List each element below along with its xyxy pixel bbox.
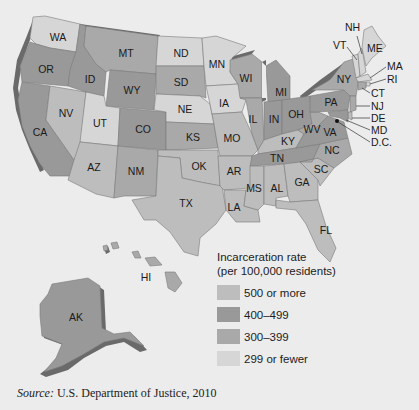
label-wi: WI	[240, 72, 253, 84]
label-me: ME	[367, 42, 383, 54]
label-mn: MN	[209, 58, 225, 70]
legend-swatch	[217, 329, 240, 344]
label-tx: TX	[179, 197, 192, 209]
callout-line-vt	[347, 47, 357, 60]
legend-label: 500 or more	[244, 287, 306, 299]
legend-title: Incarceration rate	[217, 250, 407, 264]
label-ks: KS	[186, 131, 200, 143]
label-vt: VT	[333, 39, 347, 51]
state-hi-island-4[interactable]	[145, 257, 162, 266]
legend-swatch	[217, 307, 240, 322]
state-de[interactable]	[348, 112, 352, 120]
legend-label: 300–399	[244, 331, 289, 343]
state-hi-island-5[interactable]	[165, 272, 182, 292]
label-md: MD	[371, 124, 388, 136]
state-ri[interactable]	[366, 82, 370, 86]
label-va: VA	[323, 126, 336, 138]
label-az: AZ	[87, 161, 101, 173]
label-ga: GA	[294, 176, 309, 188]
label-or: OR	[38, 63, 54, 75]
label-nc: NC	[324, 144, 340, 156]
label-al: AL	[271, 182, 284, 194]
callout-line-ri	[370, 79, 386, 84]
callout-line-ct	[362, 88, 370, 93]
label-tn: TN	[270, 152, 284, 164]
label-mi: MI	[275, 86, 287, 98]
source-note: Source: U.S. Department of Justice, 2010	[17, 386, 217, 401]
label-wa: WA	[50, 31, 67, 43]
state-hi-island-2[interactable]	[111, 242, 119, 249]
label-id: ID	[85, 73, 96, 85]
label-co: CO	[135, 123, 151, 135]
legend-label: 299 or fewer	[244, 353, 308, 365]
label-de: DE	[371, 112, 386, 124]
legend-subtitle: (per 100,000 residents)	[217, 264, 407, 278]
legend-item-400-499: 400–499	[217, 307, 407, 322]
state-ak[interactable]	[40, 278, 144, 372]
label-ar: AR	[227, 165, 242, 177]
state-nj[interactable]	[350, 96, 356, 112]
legend-item-300-399: 300–399	[217, 329, 407, 344]
label-sd: SD	[174, 76, 189, 88]
label-ct: CT	[371, 87, 386, 99]
lake-michigan	[262, 62, 266, 98]
label-ak: AK	[69, 311, 83, 323]
legend-swatch	[217, 285, 240, 300]
state-hi-island-3[interactable]	[132, 251, 141, 258]
label-ky: KY	[281, 135, 295, 147]
map-legend: Incarceration rate (per 100,000 resident…	[217, 250, 407, 366]
legend-label: 400–499	[244, 309, 289, 321]
state-ct[interactable]	[358, 82, 366, 90]
label-ri: RI	[387, 73, 398, 85]
source-prefix: Source:	[17, 386, 54, 400]
label-oh: OH	[288, 108, 304, 120]
label-hi: HI	[141, 271, 152, 283]
label-in: IN	[269, 113, 280, 125]
label-pa: PA	[324, 96, 337, 108]
label-mo: MO	[224, 132, 241, 144]
incarceration-map-figure: WA OR CA NV ID MT WY UT AZ CO NM ND SD N…	[0, 0, 419, 410]
label-ms: MS	[246, 182, 262, 194]
label-nd: ND	[173, 47, 189, 59]
callout-line-md	[346, 120, 370, 130]
label-dc: D.C.	[371, 136, 392, 148]
legend-item-299-or-fewer: 299 or fewer	[217, 351, 407, 366]
label-ne: NE	[178, 103, 193, 115]
label-nm: NM	[128, 165, 144, 177]
label-mt: MT	[118, 47, 134, 59]
legend-swatch	[217, 351, 240, 366]
label-la: LA	[228, 201, 241, 213]
label-nh: NH	[345, 21, 360, 33]
state-hi-island-1[interactable]	[103, 245, 108, 251]
source-text: U.S. Department of Justice, 2010	[54, 386, 217, 400]
label-il: IL	[249, 113, 258, 125]
label-sc: SC	[314, 163, 329, 175]
label-ca: CA	[33, 126, 48, 138]
legend-item-500-or-more: 500 or more	[217, 285, 407, 300]
label-ma: MA	[387, 60, 403, 72]
label-fl: FL	[320, 224, 332, 236]
label-ia: IA	[219, 97, 229, 109]
label-ny: NY	[337, 73, 352, 85]
label-wv: WV	[304, 123, 321, 135]
label-nj: NJ	[371, 100, 384, 112]
callout-line-ma	[370, 67, 386, 78]
label-ut: UT	[93, 117, 108, 129]
label-nv: NV	[59, 107, 74, 119]
label-ok: OK	[191, 160, 206, 172]
label-wy: WY	[124, 84, 141, 96]
